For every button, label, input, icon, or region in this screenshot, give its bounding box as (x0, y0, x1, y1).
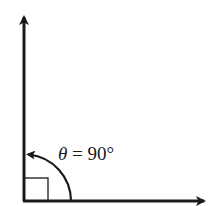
angle-label: θ = 90° (58, 143, 114, 164)
angle-value: 90° (88, 143, 115, 164)
right-angle-marker (24, 178, 48, 201)
right-angle-diagram: θ = 90° (0, 0, 221, 206)
equals-sign: = (67, 143, 87, 164)
theta-symbol: θ (58, 143, 67, 164)
